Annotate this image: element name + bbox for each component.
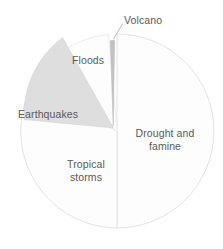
pie-label-drought-and-famine: Drought and famine	[126, 127, 204, 152]
pie-chart-graphic	[0, 0, 223, 249]
pie-label-earthquakes: Earthquakes	[18, 108, 78, 121]
pie-label-floods: Floods	[72, 54, 104, 67]
pie-label-tropical-storms: Tropical storms	[55, 158, 117, 183]
pie-chart: Volcano Floods Earthquakes Drought and f…	[0, 0, 223, 249]
pie-label-volcano: Volcano	[124, 14, 162, 27]
